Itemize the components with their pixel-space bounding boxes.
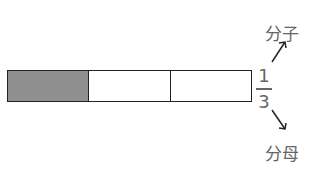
- arrows: [0, 0, 322, 174]
- arrow-down-icon: [272, 110, 285, 129]
- arrow-up-icon: [272, 42, 285, 62]
